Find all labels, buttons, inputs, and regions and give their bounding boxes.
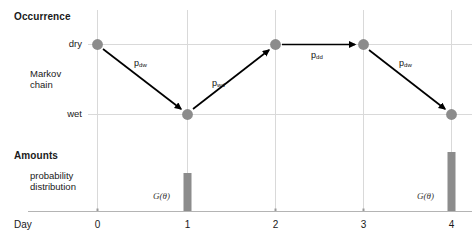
node-day3-dry	[358, 39, 369, 50]
figure-canvas: Occurrence dry wet Markov chain pdw pwd …	[0, 0, 472, 244]
state-label-wet: wet	[46, 108, 82, 119]
axis-tick-4: 4	[441, 219, 462, 230]
state-nodes	[92, 39, 457, 120]
axis-tick-3: 3	[353, 219, 374, 230]
bar-day4	[448, 152, 456, 211]
axis-tick-0: 0	[87, 219, 108, 230]
arrow-t1	[193, 50, 269, 109]
p-sub-3: dw	[404, 62, 412, 68]
markov-chain-note-line2: chain	[30, 79, 53, 90]
occurrence-heading: Occurrence	[14, 11, 71, 22]
bar-day1	[184, 173, 192, 211]
p-sub-1: wd	[217, 82, 225, 88]
diagram-graphics	[0, 0, 472, 244]
bar-label-day1: G(θ)	[153, 191, 170, 201]
transition-arrows	[103, 45, 445, 110]
node-day4-wet	[446, 109, 457, 120]
axis-tick-1: 1	[177, 219, 198, 230]
node-day1-wet	[182, 109, 193, 120]
amount-bars	[184, 152, 456, 211]
transition-label-dw-0: pdw	[134, 58, 147, 68]
axis-name-day: Day	[14, 219, 32, 230]
p-sub-2: dd	[316, 54, 323, 60]
amounts-note-line2: distribution	[30, 181, 76, 192]
transition-label-wd-1: pwd	[212, 78, 225, 88]
bar-label-day4: G(θ)	[417, 191, 434, 201]
markov-chain-note-line1: Markov	[30, 68, 61, 79]
axis-ticks	[98, 209, 452, 212]
p-sub-0: dw	[139, 62, 147, 68]
node-day0-dry	[92, 39, 103, 50]
transition-label-dw-3: pdw	[399, 58, 412, 68]
state-label-dry: dry	[46, 38, 82, 49]
node-day2-dry	[270, 39, 281, 50]
amounts-note-line1: probability	[30, 170, 73, 181]
state-gridlines	[88, 45, 472, 115]
amounts-heading: Amounts	[14, 150, 58, 161]
transition-label-dd-2: pdd	[311, 50, 323, 60]
axis-tick-2: 2	[265, 219, 286, 230]
